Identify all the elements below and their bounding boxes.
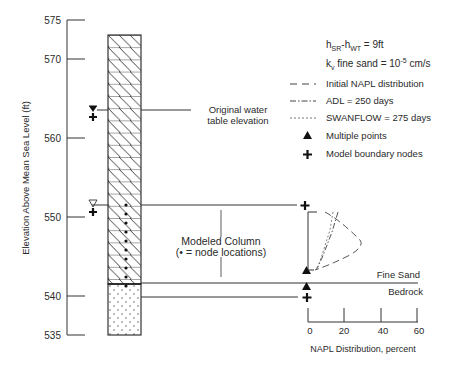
dotted-bedrock-zone <box>108 284 141 335</box>
y-tick-540: 540 <box>44 291 61 302</box>
filled-water-table-icon <box>89 106 97 112</box>
original-water-table-label: Original water <box>209 104 268 115</box>
legend: hSR-hWT = 9ft kv fine sand = 10-5 cm/s I… <box>290 39 431 159</box>
legend-item-multiple-points: Multiple points <box>326 130 387 141</box>
napl-profile-plot <box>308 212 361 270</box>
x-tick-0: 0 <box>307 325 312 336</box>
plus-icon <box>301 201 310 210</box>
bedrock-label: Bedrock <box>388 286 423 297</box>
node-locations-label: (• = node locations) <box>176 246 266 258</box>
y-tick-550: 550 <box>44 212 61 223</box>
original-water-table-label-2: table elevation <box>207 115 268 126</box>
hatched-fine-sand-zone <box>108 35 141 284</box>
napl-column-diagram: 575 570 560 550 540 535 Elevation Above … <box>0 0 456 374</box>
soil-column <box>108 35 141 335</box>
x-tick-40: 40 <box>378 325 389 336</box>
x-tick-60: 60 <box>414 325 425 336</box>
x-axis: 0 20 40 60 NAPL Distribution, percent <box>307 308 424 354</box>
initial-napl-curve <box>315 212 361 270</box>
conductivity-parameter: kv fine sand = 10-5 cm/s <box>326 57 431 71</box>
plus-icon <box>89 113 97 121</box>
x-tick-20: 20 <box>339 325 350 336</box>
hollow-water-table-icon <box>89 200 97 207</box>
legend-item-initial-napl: Initial NAPL distribution <box>326 78 424 89</box>
y-tick-535: 535 <box>44 330 61 341</box>
x-axis-label: NAPL Distribution, percent <box>310 344 416 354</box>
y-tick-570: 570 <box>44 54 61 65</box>
legend-item-swanflow: SWANFLOW = 275 days <box>326 112 431 123</box>
legend-item-boundary-nodes: Model boundary nodes <box>326 148 423 159</box>
swanflow-curve <box>317 212 333 270</box>
y-tick-575: 575 <box>44 15 61 26</box>
adl-curve <box>316 212 338 270</box>
plus-icon <box>89 208 97 216</box>
triangle-icon <box>303 131 312 139</box>
legend-item-adl: ADL = 250 days <box>326 95 394 106</box>
y-tick-560: 560 <box>44 133 61 144</box>
y-axis: 575 570 560 550 540 535 Elevation Above … <box>20 15 85 341</box>
modeled-column-annotation: Modeled Column (• = node locations) <box>176 210 266 277</box>
plus-icon <box>303 150 312 159</box>
head-difference-parameter: hSR-hWT = 9ft <box>326 39 384 52</box>
y-axis-label: Elevation Above Mean Sea Level (ft) <box>20 101 31 255</box>
current-water-table-marker <box>89 200 108 216</box>
fine-sand-label: Fine Sand <box>377 269 420 280</box>
plus-icon <box>303 293 312 302</box>
